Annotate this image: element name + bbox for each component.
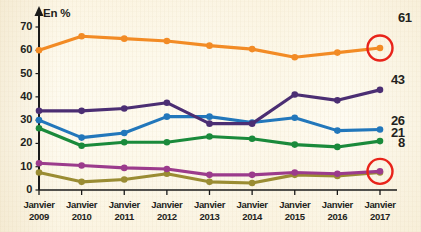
data-point-marker — [291, 54, 298, 61]
data-point-marker — [36, 117, 43, 124]
data-point-marker — [36, 108, 43, 115]
x-axis-tick-label: Janvier2016 — [314, 199, 360, 222]
data-point-marker — [36, 125, 43, 132]
x-tick-month: Janvier — [229, 199, 275, 211]
x-tick-month: Janvier — [187, 199, 233, 211]
x-tick-month: Janvier — [357, 199, 403, 211]
data-point-marker — [164, 113, 171, 120]
data-point-marker — [121, 176, 128, 183]
x-tick-year: 2009 — [16, 211, 62, 223]
data-point-marker — [121, 35, 128, 42]
y-axis-tick-label: 40 — [10, 90, 32, 102]
series-end-label-orange-series: 61 — [398, 10, 412, 25]
x-tick-month: Janvier — [16, 199, 62, 211]
x-tick-year: 2014 — [229, 211, 275, 223]
data-point-marker — [377, 138, 384, 145]
y-axis-tick-label: 20 — [10, 136, 32, 148]
data-point-marker — [121, 139, 128, 146]
data-point-marker — [206, 133, 213, 140]
data-point-marker — [206, 42, 213, 49]
y-axis-tick-label: 70 — [10, 20, 32, 32]
y-axis-tick-label: 10 — [10, 160, 32, 172]
x-axis-tick-label: Janvier2010 — [59, 199, 105, 222]
x-tick-year: 2010 — [59, 211, 105, 223]
data-point-marker — [164, 139, 171, 146]
data-point-marker — [249, 46, 256, 53]
series-end-label-purple-series: 43 — [391, 72, 405, 87]
series-end-label-magenta-series: 8 — [398, 135, 405, 150]
x-tick-year: 2012 — [144, 211, 190, 223]
data-point-marker — [78, 142, 85, 149]
data-point-marker — [377, 45, 384, 52]
x-tick-year: 2017 — [357, 211, 403, 223]
data-point-marker — [164, 99, 171, 106]
data-point-marker — [78, 179, 85, 186]
data-point-marker — [78, 162, 85, 169]
data-point-marker — [334, 49, 341, 56]
data-point-marker — [377, 87, 384, 94]
x-tick-month: Janvier — [101, 199, 147, 211]
data-point-marker — [206, 172, 213, 179]
x-tick-month: Janvier — [272, 199, 318, 211]
data-point-marker — [334, 97, 341, 104]
data-point-marker — [36, 47, 43, 54]
data-point-marker — [334, 127, 341, 134]
y-axis-tick-label: 50 — [10, 67, 32, 79]
series-purple-series — [36, 87, 384, 127]
series-orange-series — [36, 33, 384, 61]
data-point-marker — [121, 130, 128, 137]
line-chart-plot — [0, 0, 421, 232]
x-tick-month: Janvier — [144, 199, 190, 211]
x-tick-year: 2016 — [314, 211, 360, 223]
data-point-marker — [334, 170, 341, 177]
x-tick-year: 2011 — [101, 211, 147, 223]
x-tick-year: 2013 — [187, 211, 233, 223]
data-point-marker — [36, 160, 43, 167]
x-tick-month: Janvier — [59, 199, 105, 211]
data-point-marker — [164, 38, 171, 45]
data-point-marker — [291, 115, 298, 122]
data-point-marker — [78, 108, 85, 115]
x-axis-tick-label: Janvier2012 — [144, 199, 190, 222]
data-point-marker — [121, 105, 128, 112]
x-tick-month: Janvier — [314, 199, 360, 211]
data-point-marker — [334, 144, 341, 151]
x-tick-year: 2015 — [272, 211, 318, 223]
chart-container: En % 010203040506070 Janvier2009Janvier2… — [0, 0, 421, 232]
data-point-marker — [78, 134, 85, 141]
data-point-marker — [291, 169, 298, 176]
data-point-marker — [291, 141, 298, 148]
data-point-marker — [206, 113, 213, 120]
x-axis-tick-label: Janvier2014 — [229, 199, 275, 222]
x-axis-tick-label: Janvier2017 — [357, 199, 403, 222]
y-axis-tick-label: 0 — [10, 183, 32, 195]
data-point-marker — [206, 120, 213, 127]
x-axis-tick-label: Janvier2015 — [272, 199, 318, 222]
data-point-marker — [377, 126, 384, 133]
x-axis-tick-label: Janvier2009 — [16, 199, 62, 222]
data-point-marker — [36, 169, 43, 176]
data-point-marker — [377, 168, 384, 175]
y-axis-tick-label: 30 — [10, 113, 32, 125]
data-point-marker — [249, 135, 256, 142]
data-point-marker — [206, 179, 213, 186]
data-point-marker — [164, 166, 171, 173]
x-axis-tick-label: Janvier2011 — [101, 199, 147, 222]
data-point-marker — [121, 165, 128, 172]
data-point-marker — [291, 91, 298, 98]
y-axis-unit-label: En % — [43, 7, 70, 19]
x-axis-tick-label: Janvier2013 — [187, 199, 233, 222]
data-point-marker — [249, 180, 256, 187]
data-point-marker — [249, 172, 256, 179]
y-axis-tick-label: 60 — [10, 43, 32, 55]
data-point-marker — [78, 33, 85, 40]
data-point-marker — [249, 120, 256, 127]
